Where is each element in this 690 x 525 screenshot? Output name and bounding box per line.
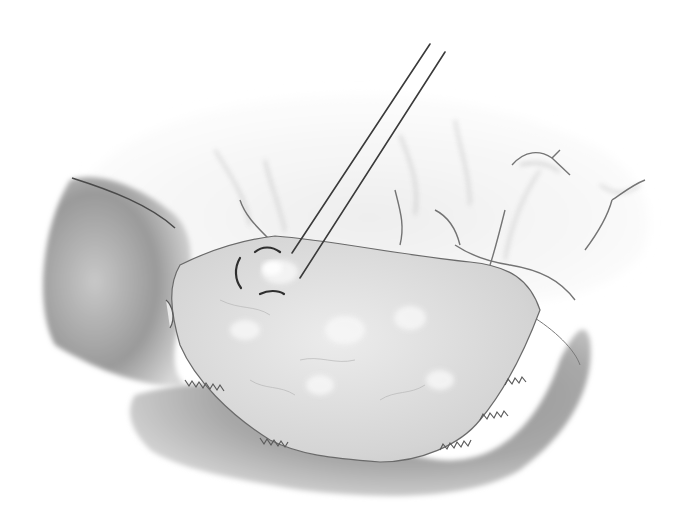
surgical-illustration: [0, 0, 690, 525]
target-highlight: [262, 261, 282, 275]
illustration-svg: [0, 0, 690, 525]
